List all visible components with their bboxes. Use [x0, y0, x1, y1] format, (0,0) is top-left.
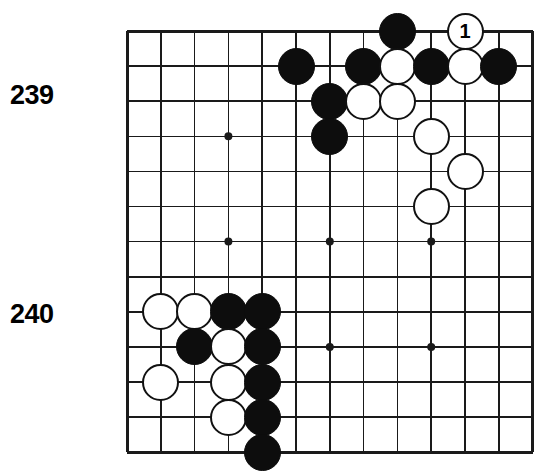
- white-stone[interactable]: 1: [447, 13, 484, 50]
- go-diagram: 239240 1: [0, 0, 549, 473]
- white-stone[interactable]: [413, 118, 450, 155]
- white-stone[interactable]: [447, 153, 484, 190]
- white-stone[interactable]: [413, 188, 450, 225]
- go-board[interactable]: 1: [0, 0, 549, 473]
- white-stone[interactable]: [210, 399, 247, 436]
- black-stone[interactable]: [480, 48, 517, 85]
- black-stone[interactable]: [244, 293, 281, 330]
- black-stone[interactable]: [311, 83, 348, 120]
- black-stone[interactable]: [413, 48, 450, 85]
- black-stone[interactable]: [210, 293, 247, 330]
- stone-move-number: 1: [449, 15, 482, 48]
- black-stone[interactable]: [278, 48, 315, 85]
- white-stone[interactable]: [345, 83, 382, 120]
- star-point: [326, 238, 334, 246]
- white-stone[interactable]: [210, 328, 247, 365]
- star-point: [427, 238, 435, 246]
- white-stone[interactable]: [379, 48, 416, 85]
- white-stone[interactable]: [379, 83, 416, 120]
- white-stone[interactable]: [142, 364, 179, 401]
- white-stone[interactable]: [447, 48, 484, 85]
- black-stone[interactable]: [379, 13, 416, 50]
- star-point: [326, 343, 334, 351]
- star-point: [224, 132, 232, 140]
- white-stone[interactable]: [210, 364, 247, 401]
- star-point: [427, 343, 435, 351]
- star-point: [224, 238, 232, 246]
- black-stone[interactable]: [244, 328, 281, 365]
- black-stone[interactable]: [311, 118, 348, 155]
- black-stone[interactable]: [244, 399, 281, 436]
- black-stone[interactable]: [244, 364, 281, 401]
- black-stone[interactable]: [345, 48, 382, 85]
- black-stone[interactable]: [244, 434, 281, 471]
